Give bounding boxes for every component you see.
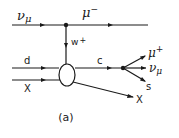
label-decay-muon: μ+ xyxy=(148,44,163,60)
arrow-icon xyxy=(40,23,45,27)
label-outgoing-remnant: X xyxy=(136,94,143,105)
label-incoming-neutrino: νμ xyxy=(17,8,31,24)
arrow-icon xyxy=(108,23,113,27)
arrow-icon xyxy=(127,94,134,98)
label-w-boson: w+ xyxy=(71,36,86,47)
label-incoming-remnant: X xyxy=(24,83,31,94)
label-incoming-quark: d xyxy=(24,55,30,66)
arrow-icon xyxy=(64,43,68,48)
label-charm-quark: c xyxy=(97,55,103,66)
hadron-blob xyxy=(59,64,75,86)
decay-lines xyxy=(123,56,146,83)
label-outgoing-muon: μ− xyxy=(82,4,98,20)
diagram-caption: (a) xyxy=(58,111,73,124)
label-decay-neutrino: νμ xyxy=(149,61,162,76)
arrow-icon xyxy=(140,56,146,61)
w-boson-line xyxy=(64,25,68,64)
lepton-line xyxy=(12,23,148,27)
arrow-icon xyxy=(107,66,112,70)
arrow-icon xyxy=(41,78,46,82)
incoming-remnant-line xyxy=(12,78,60,82)
feynman-diagram: νμ μ− w+ d X c μ+ νμ s X (a xyxy=(0,0,179,138)
arrow-icon xyxy=(41,66,46,70)
label-decay-strange: s xyxy=(146,81,151,92)
arrow-icon xyxy=(141,66,146,70)
charm-quark-line xyxy=(75,66,125,70)
incoming-quark-line xyxy=(12,66,59,70)
outgoing-remnant-line xyxy=(73,82,134,98)
